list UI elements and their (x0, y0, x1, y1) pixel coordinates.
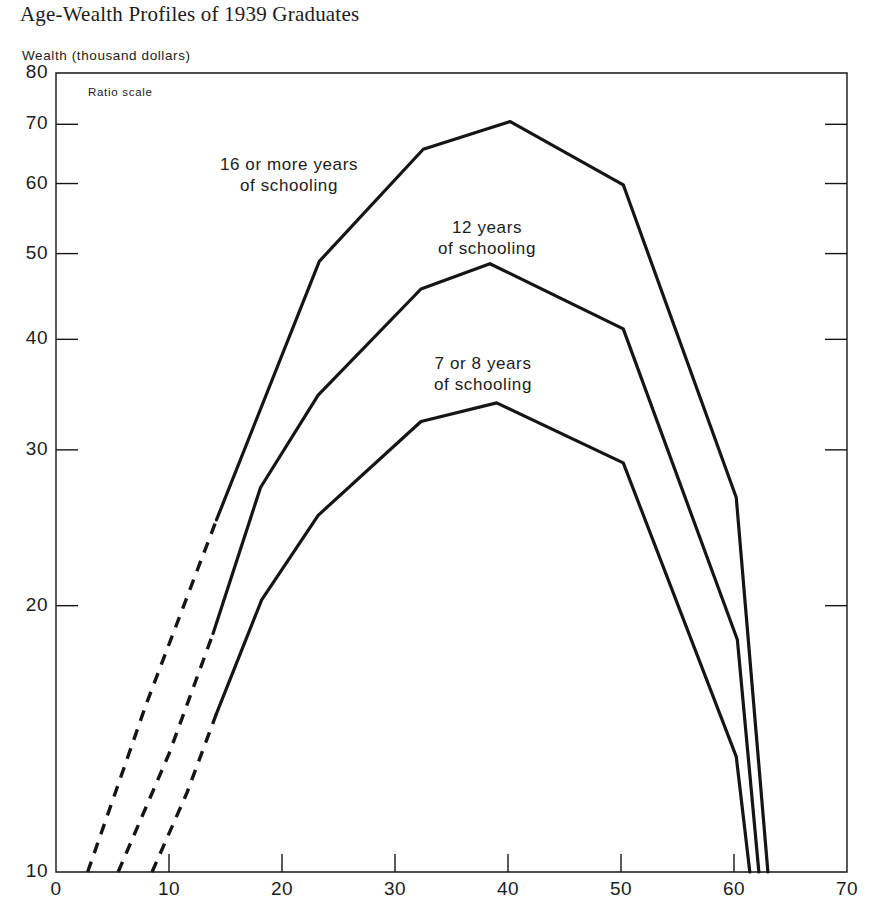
y-tick-label-20: 20 (8, 594, 48, 616)
y-tick-label-30: 30 (8, 438, 48, 460)
y-tick-label-40: 40 (8, 327, 48, 349)
y-tick-label-60: 60 (8, 172, 48, 194)
x-tick-label-30: 30 (375, 878, 415, 900)
x-tick-label-10: 10 (149, 878, 189, 900)
series-annotation-1: 12 years of schooling (387, 218, 587, 259)
series-2-line (216, 403, 749, 872)
x-tick-label-20: 20 (262, 878, 302, 900)
series-2-dashed-segment (152, 714, 216, 872)
x-tick-label-60: 60 (714, 878, 754, 900)
series-0-dashed-segment (88, 520, 217, 872)
line-chart-plot (0, 0, 880, 900)
y-tick-label-50: 50 (8, 242, 48, 264)
y-tick-label-80: 80 (8, 61, 48, 83)
series-annotation-0: 16 or more years of schooling (189, 155, 389, 196)
series-annotation-2: 7 or 8 years of schooling (383, 354, 583, 395)
x-tick-label-70: 70 (827, 878, 867, 900)
y-tick-label-70: 70 (8, 112, 48, 134)
x-tick-label-50: 50 (601, 878, 641, 900)
chart-page: Age-Wealth Profiles of 1939 Graduates We… (0, 0, 880, 900)
x-tick-label-40: 40 (488, 878, 528, 900)
series-1-dashed-segment (118, 634, 213, 872)
x-tick-label-0: 0 (36, 878, 76, 900)
